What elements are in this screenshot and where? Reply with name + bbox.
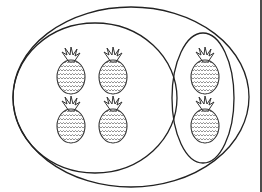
pineapple-icon	[99, 47, 127, 94]
pineapple-icon	[191, 47, 219, 94]
set-diagram	[0, 0, 262, 192]
right-group-ellipse	[172, 33, 234, 163]
pineapple-icon	[99, 96, 127, 143]
pineapple-icon	[57, 47, 85, 94]
pineapple-icon	[57, 96, 85, 143]
left-group-ellipse	[13, 23, 177, 173]
pineapple-icon	[191, 96, 219, 143]
